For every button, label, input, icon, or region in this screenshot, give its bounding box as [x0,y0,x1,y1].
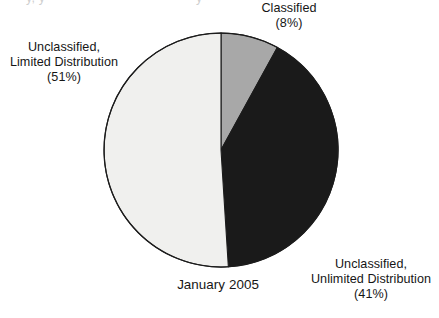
pie-chart-figure: y, y y Classified (8%) Unclassified, Lim… [0,0,439,318]
slice-label-unclassified-limited: Unclassified, Limited Distribution (51%) [6,40,122,86]
slice-label-unclassified-unlimited: Unclassified, Unlimited Distribution (41… [304,257,438,303]
pie-slice-unclassified-limited-distribution [104,33,228,267]
slice-label-classified: Classified (8%) [233,1,345,31]
period-label: January 2005 [146,277,290,292]
pie-slice-group [104,33,338,267]
